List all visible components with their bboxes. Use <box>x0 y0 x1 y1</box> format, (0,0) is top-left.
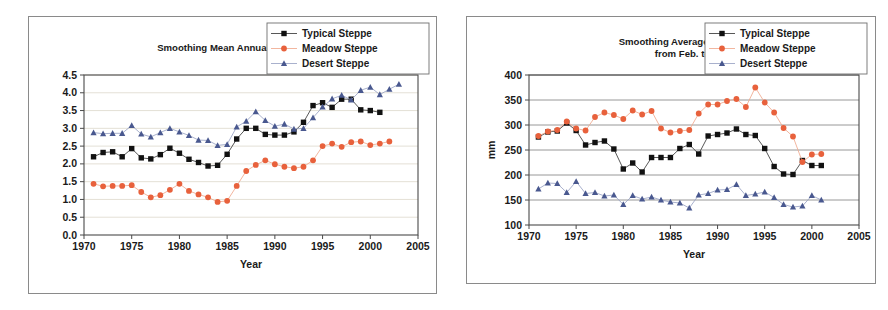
data-point-desert <box>367 84 373 90</box>
plot-frame <box>84 75 418 235</box>
data-point-typical <box>167 146 172 151</box>
data-point-meadow <box>262 157 268 163</box>
data-point-typical <box>724 130 729 135</box>
data-point-meadow <box>554 127 560 133</box>
data-point-typical <box>263 132 268 137</box>
data-point-typical <box>753 133 758 138</box>
data-point-typical <box>781 171 786 176</box>
y-tick-label: 0.5 <box>62 211 77 223</box>
data-point-meadow <box>129 182 135 188</box>
data-point-meadow <box>205 194 211 200</box>
data-point-typical <box>301 120 306 125</box>
x-tick-label: 1975 <box>564 230 588 242</box>
data-point-meadow <box>367 142 373 148</box>
legend-marker-typical <box>281 31 286 36</box>
data-point-typical <box>687 142 692 147</box>
data-point-typical <box>224 152 229 157</box>
y-axis-title: mm <box>485 141 497 160</box>
data-point-desert <box>762 189 768 195</box>
x-tick-label: 1980 <box>168 240 192 252</box>
series-group <box>535 85 824 211</box>
data-point-meadow <box>167 187 173 193</box>
data-point-meadow <box>301 164 307 170</box>
chart-panel-precipitation: Smoothing Average Precipitationfrom Feb.… <box>466 16 876 284</box>
y-tick-label: 2.0 <box>62 157 77 169</box>
data-point-meadow <box>611 112 617 118</box>
data-point-meadow <box>705 102 711 108</box>
data-point-meadow <box>100 183 106 189</box>
legend-label: Meadow Steppe <box>740 43 816 54</box>
data-point-meadow <box>800 159 806 165</box>
y-axis: 0.00.51.01.52.02.53.03.54.04.5 <box>62 69 84 241</box>
data-point-typical <box>148 156 153 161</box>
data-point-meadow <box>545 129 551 135</box>
data-point-typical <box>234 136 239 141</box>
data-point-typical <box>91 154 96 159</box>
x-axis-title: Year <box>683 248 705 260</box>
data-point-typical <box>196 160 201 165</box>
data-point-desert <box>809 192 815 198</box>
data-point-meadow <box>602 110 608 116</box>
data-point-desert <box>176 129 182 135</box>
x-axis-title: Year <box>240 258 262 270</box>
y-tick-label: 400 <box>504 69 522 81</box>
data-point-typical <box>253 126 258 131</box>
y-tick-label: 1.0 <box>62 193 77 205</box>
data-point-meadow <box>771 110 777 116</box>
data-point-typical <box>592 140 597 145</box>
data-point-typical <box>205 163 210 168</box>
data-point-meadow <box>138 189 144 195</box>
temperature-chart: Smoothing Mean Annual temperature (□ )0.… <box>29 17 436 293</box>
x-tick-label: 1990 <box>263 240 287 252</box>
data-point-meadow <box>818 151 824 157</box>
data-point-typical <box>649 155 654 160</box>
data-point-desert <box>780 201 786 207</box>
data-point-meadow <box>592 114 598 120</box>
data-point-meadow <box>186 188 192 194</box>
legend-label: Typical Steppe <box>740 28 810 39</box>
data-point-desert <box>224 141 230 147</box>
data-point-meadow <box>329 141 335 147</box>
data-point-meadow <box>119 183 125 189</box>
data-point-desert <box>90 129 96 135</box>
data-point-meadow <box>620 116 626 122</box>
x-tick-label: 2005 <box>847 230 871 242</box>
data-point-typical <box>244 126 249 131</box>
data-point-meadow <box>734 96 740 102</box>
y-tick-label: 1.5 <box>62 175 77 187</box>
series-line <box>94 99 380 166</box>
data-point-meadow <box>348 139 354 145</box>
data-point-desert <box>611 192 617 198</box>
data-point-desert <box>329 96 335 102</box>
precipitation-chart: Smoothing Average Precipitationfrom Feb.… <box>467 17 875 283</box>
x-tick-label: 1970 <box>517 230 541 242</box>
data-point-meadow <box>386 139 392 145</box>
data-point-typical <box>282 132 287 137</box>
legend-label: Desert Steppe <box>740 58 808 69</box>
legend-label: Typical Steppe <box>302 28 372 39</box>
data-point-typical <box>215 163 220 168</box>
data-point-typical <box>743 132 748 137</box>
data-point-meadow <box>272 161 278 167</box>
data-point-typical <box>158 152 163 157</box>
data-point-typical <box>110 149 115 154</box>
y-axis: 100150200250300350400 <box>504 69 529 231</box>
data-point-desert <box>186 132 192 138</box>
data-point-desert <box>592 189 598 195</box>
data-point-meadow <box>234 183 240 189</box>
data-point-meadow <box>668 130 674 136</box>
x-tick-label: 1975 <box>120 240 144 252</box>
x-axis: 19701975198019851990199520002005 <box>517 225 871 242</box>
chart-panel-temperature: Smoothing Mean Annual temperature (□ )0.… <box>28 16 437 294</box>
data-point-typical <box>790 172 795 177</box>
y-tick-label: 2.5 <box>62 140 77 152</box>
series-desert <box>90 81 402 148</box>
data-point-meadow <box>583 128 589 134</box>
x-tick-label: 1970 <box>72 240 96 252</box>
data-point-meadow <box>339 144 345 150</box>
data-point-typical <box>809 163 814 168</box>
data-point-typical <box>177 151 182 156</box>
data-point-desert <box>771 194 777 200</box>
data-point-typical <box>119 154 124 159</box>
data-point-desert <box>157 129 163 135</box>
